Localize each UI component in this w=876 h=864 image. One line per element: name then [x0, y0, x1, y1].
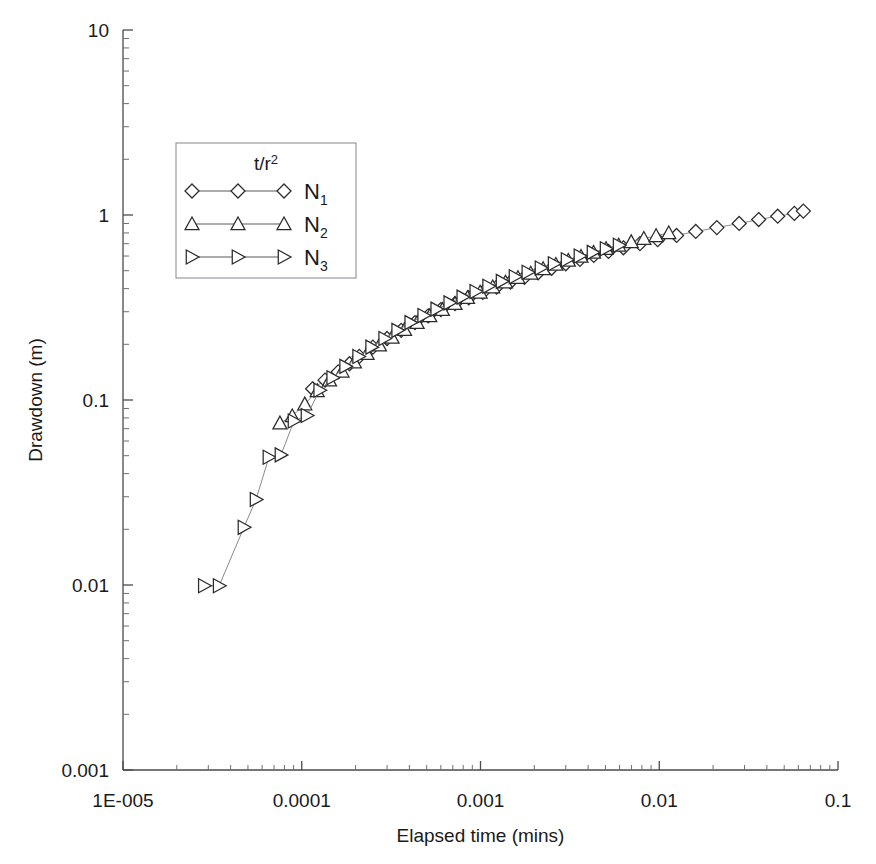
diamond-marker	[732, 216, 746, 230]
diamond-marker	[752, 213, 766, 227]
y-tick-label: 10	[88, 20, 109, 41]
x-tick-label: 0.0001	[273, 790, 331, 811]
x-tick-label: 0.1	[825, 790, 851, 811]
y-tick-label: 0.1	[83, 390, 109, 411]
series-line-N1	[313, 211, 804, 389]
triangle-right-marker	[263, 450, 276, 464]
y-axis-title: Drawdown (m)	[25, 338, 46, 462]
diamond-marker	[771, 209, 785, 223]
y-tick-label: 1	[98, 205, 109, 226]
series-N3	[199, 238, 627, 593]
x-axis-title: Elapsed time (mins)	[397, 825, 565, 846]
chart-legend: t/r2N1N2N3	[176, 143, 356, 278]
axis-ticks	[123, 30, 838, 770]
series-N1	[306, 204, 811, 396]
triangle-right-marker	[238, 520, 251, 534]
y-tick-label: 0.001	[61, 760, 109, 781]
triangle-right-marker	[301, 408, 314, 422]
triangle-right-marker	[213, 579, 226, 593]
axis-tick-labels: 1E-0050.00010.0010.010.11010.10.010.001	[61, 20, 851, 811]
series-line-N3	[204, 245, 619, 586]
x-tick-label: 0.01	[641, 790, 678, 811]
y-tick-label: 0.01	[72, 575, 109, 596]
triangle-right-marker	[250, 492, 263, 506]
triangle-right-marker	[275, 448, 288, 462]
x-tick-label: 0.001	[457, 790, 505, 811]
diamond-marker	[710, 221, 724, 235]
diamond-marker	[689, 224, 703, 238]
triangle-up-marker	[273, 416, 287, 429]
chart-container: 1E-0050.00010.0010.010.11010.10.010.001 …	[0, 0, 876, 864]
axes	[123, 30, 838, 770]
triangle-right-marker	[199, 579, 212, 593]
scatter-plot-svg: 1E-0050.00010.0010.010.11010.10.010.001 …	[0, 0, 876, 864]
x-tick-label: 1E-005	[92, 790, 153, 811]
